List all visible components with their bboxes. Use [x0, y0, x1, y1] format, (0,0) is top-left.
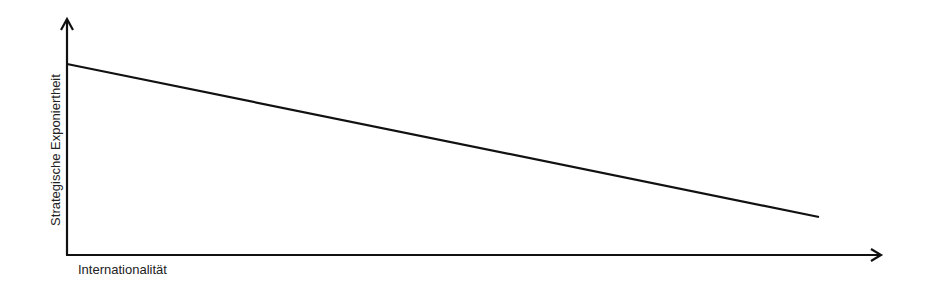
- x-axis-label: Internationalität: [78, 262, 167, 277]
- chart-canvas: [0, 0, 928, 294]
- data-line: [67, 64, 819, 217]
- y-axis-label: Strategische Exponiertheit: [48, 74, 63, 226]
